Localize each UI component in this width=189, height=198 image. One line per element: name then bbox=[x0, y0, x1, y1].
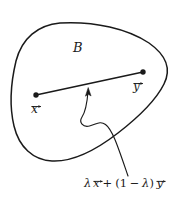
vector-y-glyph: y bbox=[133, 80, 140, 92]
callout-leader-curve bbox=[81, 92, 128, 176]
point-label-x: x bbox=[31, 103, 38, 115]
endpoint-dot-y bbox=[140, 69, 145, 74]
formula-vector-x: x bbox=[93, 178, 100, 190]
formula-minus: − bbox=[130, 176, 140, 190]
set-label-B: B bbox=[73, 41, 83, 54]
convex-combination-formula: λx+(1−λ)y bbox=[84, 178, 163, 190]
formula-vector-y: y bbox=[156, 178, 163, 190]
point-label-x-text: x bbox=[31, 102, 38, 116]
formula-x-text: x bbox=[93, 176, 100, 190]
formula-one: 1 bbox=[120, 176, 127, 190]
formula-close-paren: ) bbox=[149, 176, 154, 190]
figure-canvas bbox=[0, 0, 189, 198]
formula-plus: + bbox=[102, 176, 112, 190]
point-label-y: y bbox=[133, 80, 140, 92]
formula-y-text: y bbox=[156, 176, 163, 190]
vector-x-glyph: x bbox=[31, 103, 38, 115]
formula-lambda-1: λ bbox=[84, 176, 91, 190]
convex-set-figure: B x y λx+(1−λ)y bbox=[0, 0, 189, 198]
point-label-y-text: y bbox=[133, 79, 140, 93]
endpoint-dot-x bbox=[33, 92, 38, 97]
